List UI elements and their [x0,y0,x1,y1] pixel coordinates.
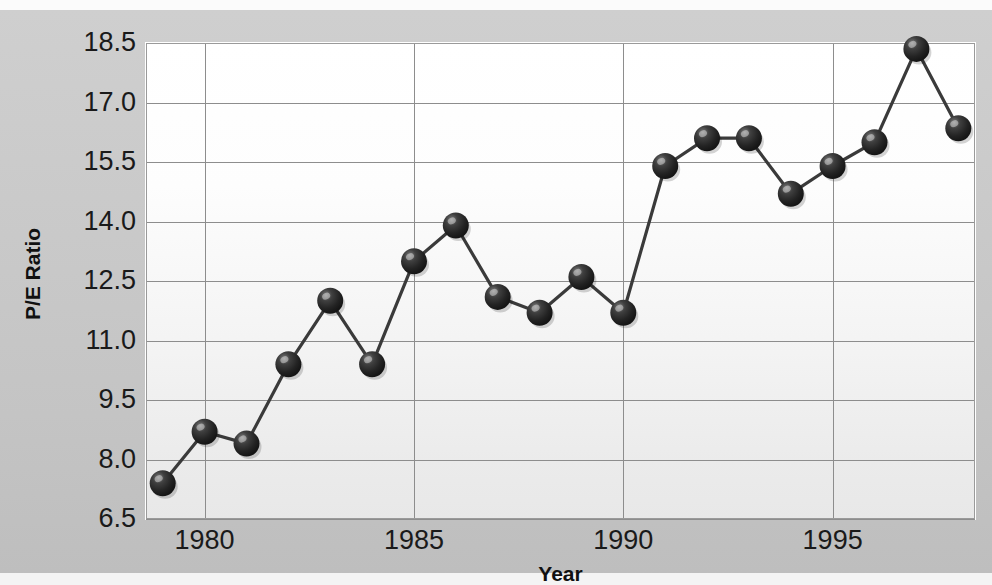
x-tick-label: 1995 [773,527,893,554]
y-tick-label: 17.0 [44,89,136,116]
data-point-marker[interactable] [401,248,427,274]
y-tick-label: 9.5 [44,386,136,413]
y-tick-label: 15.5 [44,148,136,175]
data-point-marker[interactable] [192,419,218,445]
x-tick-label: 1980 [145,527,265,554]
y-tick-label: 18.5 [44,29,136,56]
y-tick-label: 12.5 [44,267,136,294]
data-point-marker[interactable] [736,125,762,151]
x-tick-label: 1990 [563,527,683,554]
data-point-marker[interactable] [610,300,636,326]
data-point-marker[interactable] [652,153,678,179]
data-point-marker[interactable] [694,125,720,151]
series-markers [150,36,974,499]
data-point-marker[interactable] [778,181,804,207]
data-point-marker[interactable] [527,300,553,326]
x-axis-title: Year [146,562,975,585]
data-point-marker[interactable] [903,36,929,62]
data-series-layer [146,43,975,519]
data-point-marker[interactable] [945,115,971,141]
data-point-marker[interactable] [275,351,301,377]
y-tick-label: 6.5 [44,505,136,532]
data-point-marker[interactable] [485,284,511,310]
figure-top-margin [0,0,992,10]
series-line [163,49,959,483]
y-tick-label: 11.0 [44,327,136,354]
data-point-marker[interactable] [150,470,176,496]
chart-figure: 6.58.09.511.012.514.015.517.018.5 198019… [0,0,992,585]
data-point-marker[interactable] [359,351,385,377]
gridline-horizontal [146,519,975,520]
data-point-marker[interactable] [820,153,846,179]
data-point-marker[interactable] [568,264,594,290]
data-point-marker[interactable] [443,213,469,239]
y-axis-ticks: 6.58.09.511.012.514.015.517.018.5 [40,43,136,519]
y-tick-label: 8.0 [44,446,136,473]
data-point-marker[interactable] [234,431,260,457]
data-point-marker[interactable] [862,129,888,155]
x-tick-label: 1985 [354,527,474,554]
y-tick-label: 14.0 [44,208,136,235]
y-axis-title: P/E Ratio [21,194,45,354]
data-point-marker[interactable] [317,288,343,314]
x-axis-ticks: 1980198519901995 [146,527,975,563]
